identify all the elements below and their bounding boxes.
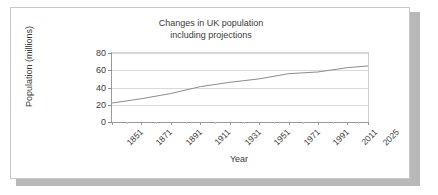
x-tick-mark <box>141 122 142 125</box>
y-tick-label: 0 <box>101 117 106 127</box>
chart-screenshot: Changes in UK population including proje… <box>0 0 438 195</box>
x-tick-label: 1871 <box>154 127 174 147</box>
x-tick-label: 1951 <box>272 127 292 147</box>
x-tick-mark <box>171 122 172 125</box>
x-tick-label: 1911 <box>213 127 233 147</box>
x-tick-minor-mark <box>156 122 157 124</box>
y-tick-label: 20 <box>96 100 106 110</box>
chart-card: Changes in UK population including proje… <box>10 7 410 179</box>
x-tick-label: 1891 <box>183 127 203 147</box>
y-axis-title: Population (millions) <box>24 12 37 122</box>
chart-title: Changes in UK population including proje… <box>11 18 411 41</box>
x-tick-label: 1991 <box>331 127 351 147</box>
x-tick-mark <box>347 122 348 125</box>
plot-area: 020406080 185118711891191119311951197119… <box>111 52 369 123</box>
x-tick-minor-mark <box>127 122 128 124</box>
y-tick-label: 40 <box>96 83 106 93</box>
x-tick-minor-mark <box>244 122 245 124</box>
y-tick-label: 60 <box>96 65 106 75</box>
x-tick-minor-mark <box>215 122 216 124</box>
x-axis-title: Year <box>111 154 367 164</box>
x-tick-mark <box>368 122 369 125</box>
y-tick-label: 80 <box>96 48 106 58</box>
x-tick-label: 1851 <box>125 127 145 147</box>
x-tick-label: 1971 <box>301 127 321 147</box>
x-tick-mark <box>289 122 290 125</box>
x-tick-mark <box>112 122 113 125</box>
x-tick-label: 1931 <box>242 127 262 147</box>
data-series-line <box>112 53 368 122</box>
x-tick-label: 2025 <box>381 127 401 147</box>
x-tick-mark <box>230 122 231 125</box>
chart-title-line-2: including projections <box>11 30 411 42</box>
x-tick-minor-mark <box>303 122 304 124</box>
x-tick-mark <box>200 122 201 125</box>
chart-title-line-1: Changes in UK population <box>11 18 411 30</box>
x-tick-minor-mark <box>333 122 334 124</box>
x-tick-minor-mark <box>274 122 275 124</box>
x-tick-label: 2011 <box>360 127 380 147</box>
x-tick-mark <box>259 122 260 125</box>
x-tick-minor-mark <box>186 122 187 124</box>
x-tick-minor-mark <box>358 122 359 124</box>
x-tick-mark <box>318 122 319 125</box>
